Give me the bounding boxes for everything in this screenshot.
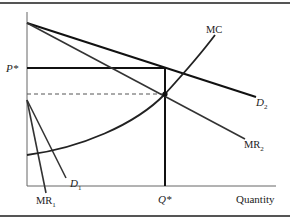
- d1-label: D1: [69, 177, 82, 192]
- mr1-label: MR1: [36, 195, 56, 209]
- quantity-star-label: Q*: [158, 193, 172, 205]
- d2-label: D2: [255, 96, 268, 111]
- price-star-label: P*: [5, 62, 19, 74]
- marginal-revenue-curve-mr1: [27, 100, 46, 193]
- mr2-label: MR2: [244, 139, 264, 153]
- marginal-revenue-curve-mr2: [27, 23, 245, 139]
- demand-curve-d1: [27, 100, 66, 178]
- monopoly-diagram: P* Q* Quantity MC D2 MR2 D1 MR1: [0, 0, 290, 219]
- mc-label: MC: [206, 24, 222, 35]
- x-axis-label: Quantity: [236, 193, 275, 205]
- equilibrium-point: [162, 91, 167, 96]
